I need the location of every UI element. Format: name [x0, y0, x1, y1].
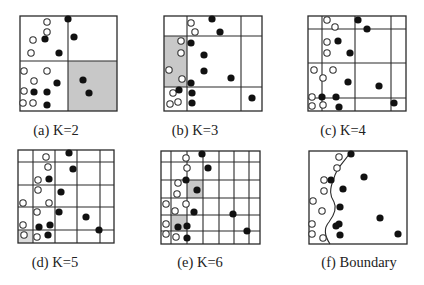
open-point [319, 208, 325, 214]
filled-point [339, 185, 346, 192]
open-point [44, 19, 50, 25]
open-point [167, 101, 173, 107]
filled-point [354, 16, 361, 23]
shaded-cell [68, 61, 117, 111]
filled-point [200, 51, 207, 58]
filled-point [204, 164, 211, 171]
filled-point [41, 35, 48, 42]
filled-point [243, 227, 250, 234]
filled-point [188, 89, 195, 96]
open-point [309, 221, 315, 227]
filled-point [344, 78, 351, 85]
filled-point [175, 86, 182, 93]
open-point [163, 201, 169, 207]
filled-point [95, 226, 102, 233]
filled-point [198, 150, 205, 157]
open-point [44, 68, 50, 74]
open-point [309, 94, 315, 100]
open-point [184, 165, 190, 171]
open-point [179, 76, 185, 82]
open-point [163, 221, 169, 227]
filled-point [57, 188, 64, 195]
open-point [324, 39, 330, 45]
open-point [174, 191, 180, 197]
panel-caption-a: (a) K=2 [33, 122, 79, 139]
open-point [192, 29, 198, 35]
filled-point [55, 208, 62, 215]
panel-background [309, 151, 407, 244]
filled-point [45, 175, 52, 182]
filled-point [332, 222, 339, 229]
filled-point [347, 150, 354, 157]
filled-point [85, 89, 92, 96]
open-point [320, 102, 326, 108]
panel-e: (e) K=6 [161, 150, 260, 271]
filled-point [190, 208, 197, 215]
filled-point [336, 203, 343, 210]
filled-point [376, 214, 383, 221]
open-point [30, 37, 36, 43]
filled-point [64, 15, 71, 22]
filled-point [248, 94, 255, 101]
open-point [163, 231, 169, 237]
filled-point [55, 49, 62, 56]
panel-caption-c: (c) K=4 [320, 122, 366, 139]
filled-point [79, 76, 86, 83]
open-point [166, 67, 172, 73]
filled-point [187, 79, 194, 86]
open-point [35, 187, 41, 193]
open-point [310, 198, 316, 204]
open-point [170, 90, 176, 96]
panel-f: (f) Boundary [309, 150, 407, 271]
open-point [321, 188, 327, 194]
filled-point [208, 15, 215, 22]
open-point [324, 17, 330, 23]
open-point [20, 200, 26, 206]
filled-point [183, 222, 190, 229]
panels-layer: (a) K=2(b) K=3(c) K=4(d) K=5(e) K=6(f) B… [18, 15, 407, 271]
filled-point [346, 49, 353, 56]
open-point [183, 155, 189, 161]
panel-a: (a) K=2 [20, 15, 117, 139]
filled-point [200, 67, 207, 74]
open-point [21, 88, 27, 94]
open-point [309, 103, 315, 109]
filled-point [43, 101, 50, 108]
open-point [34, 234, 40, 240]
filled-point [318, 93, 325, 100]
filled-point [82, 213, 89, 220]
open-point [320, 75, 326, 81]
panel-b: (b) K=3 [164, 15, 262, 139]
filled-point [69, 165, 76, 172]
open-point [44, 29, 50, 35]
filled-point [216, 28, 223, 35]
filled-point [44, 231, 51, 238]
filled-point [30, 88, 37, 95]
filled-point [227, 74, 234, 81]
open-point [175, 99, 181, 105]
open-point [183, 201, 189, 207]
panel-d: (d) K=5 [18, 149, 114, 271]
open-point [320, 235, 326, 241]
open-point [30, 100, 36, 106]
filled-point [188, 99, 195, 106]
filled-point [182, 176, 189, 183]
filled-point [327, 176, 334, 183]
filled-point [46, 221, 53, 228]
open-point [34, 209, 40, 215]
open-point [28, 50, 34, 56]
open-point [175, 180, 181, 186]
open-point [31, 78, 37, 84]
filled-point [334, 37, 341, 44]
open-point [178, 50, 184, 56]
open-point [178, 38, 184, 44]
open-point [173, 234, 179, 240]
open-point [35, 177, 41, 183]
open-point [321, 177, 327, 183]
filled-point [187, 39, 194, 46]
filled-point [183, 234, 190, 241]
filled-point [174, 223, 181, 230]
open-point [332, 24, 338, 30]
filled-point [336, 231, 343, 238]
filled-point [360, 173, 367, 180]
